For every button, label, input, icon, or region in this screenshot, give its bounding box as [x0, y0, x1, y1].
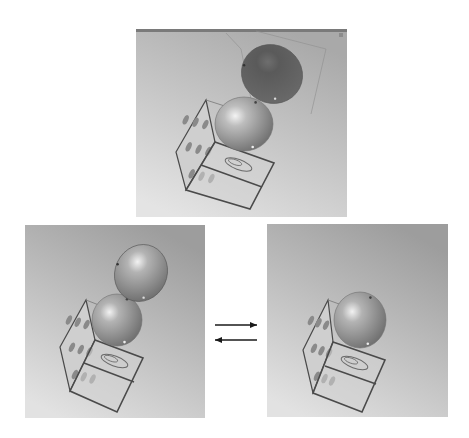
arrow-right-icon: [215, 322, 257, 328]
viewport-panel-top: [136, 29, 347, 217]
viewport-titlebar: [136, 29, 347, 32]
hemisphere-pin: [254, 101, 257, 104]
seated-hemisphere: [334, 292, 386, 348]
figure: CAD assembly views: perforated cube fram…: [0, 0, 469, 438]
transition-arrows: [205, 310, 267, 350]
hemisphere-pin: [274, 97, 276, 99]
seated-hemisphere: [92, 294, 142, 346]
viewport-panel-bottom-right: [267, 224, 448, 417]
hemisphere-pin: [369, 296, 372, 299]
arrow-left-icon: [215, 337, 257, 343]
hemisphere-pin: [367, 343, 370, 346]
hemisphere-pin: [243, 64, 245, 66]
hemisphere-pin: [251, 146, 254, 149]
hemisphere-pin: [116, 263, 118, 265]
viewport-panel-bottom-left: [25, 225, 205, 418]
hemisphere-pin: [123, 341, 126, 344]
hemisphere-pin: [142, 296, 144, 298]
viewport-corner-icon: [339, 33, 343, 37]
seated-hemisphere: [215, 97, 273, 151]
